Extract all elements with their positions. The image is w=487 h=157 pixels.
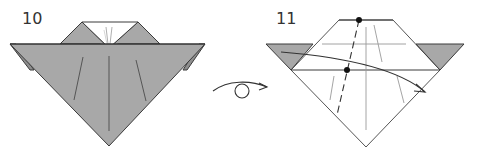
reference-dot-top [356,17,362,23]
main-body [10,44,205,146]
origami-diagram [0,0,487,157]
reference-dot-middle [344,67,350,73]
step-11-figure [266,17,464,147]
white-body [291,20,440,147]
step-10-figure [10,22,205,146]
turn-over-icon [213,82,267,98]
